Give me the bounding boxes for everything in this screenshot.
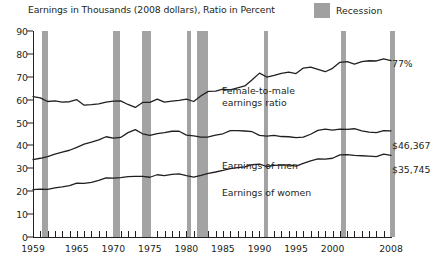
- x-tick-label: 1990: [248, 243, 272, 254]
- series-line: [33, 59, 391, 108]
- chart-root: Earnings in Thousands (2008 dollars), Ra…: [0, 0, 434, 271]
- annotation-ratio-line1: Female-to-male: [222, 85, 295, 97]
- plot-area: [33, 31, 391, 237]
- x-tick-label: 2008: [379, 243, 403, 254]
- x-tick-label: 1970: [102, 243, 126, 254]
- series-lines: [33, 31, 391, 237]
- x-axis-line: [33, 237, 391, 238]
- end-label-men: $46,367: [392, 140, 430, 151]
- x-tick-label: 2000: [321, 243, 345, 254]
- x-tick-label: 1980: [175, 243, 199, 254]
- series-line: [33, 129, 391, 160]
- x-tick-label: 1995: [284, 243, 308, 254]
- annotation-ratio-line2: earnings ratio: [222, 97, 295, 109]
- end-label-ratio: 77%: [392, 58, 413, 69]
- annotation-men: Earnings of men: [222, 160, 298, 172]
- x-tick-label: 1975: [138, 243, 162, 254]
- series-line: [33, 154, 391, 189]
- end-label-women: $35,745: [392, 164, 430, 175]
- x-tick-label: 1965: [65, 243, 89, 254]
- annotation-ratio: Female-to-male earnings ratio: [222, 85, 295, 108]
- x-tick-label: 1985: [211, 243, 235, 254]
- x-tick-label: 1959: [21, 243, 45, 254]
- annotation-women: Earnings of women: [222, 187, 311, 199]
